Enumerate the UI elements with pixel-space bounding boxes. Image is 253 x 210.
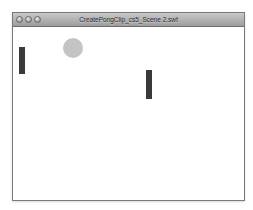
title-bar[interactable]: CreatePongClip_cs5_Scene 2.swf [13,13,244,27]
game-stage[interactable] [13,27,244,200]
left-paddle [19,47,25,74]
flash-player-window: CreatePongClip_cs5_Scene 2.swf [12,12,245,201]
ball [63,38,83,58]
window-title: CreatePongClip_cs5_Scene 2.swf [13,13,244,26]
right-paddle [146,70,152,99]
